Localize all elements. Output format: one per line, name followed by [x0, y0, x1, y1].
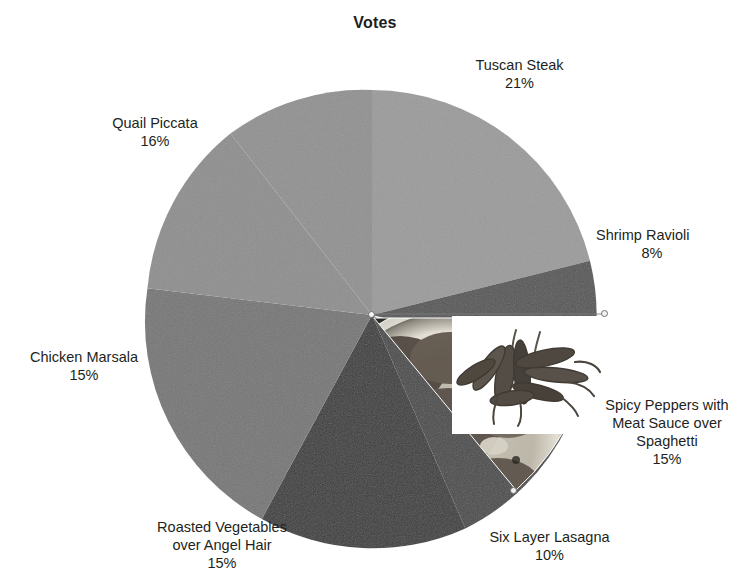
pie-label-roasted-vegetables-line1: Roasted Vegetables — [122, 518, 322, 536]
pie-label-spicy-peppers-line3: Spaghetti — [584, 432, 750, 450]
pie-label-spicy-peppers: Spicy Peppers with Meat Sauce over Spagh… — [584, 396, 750, 468]
pie-label-quail-piccata-text: Quail Piccata — [60, 114, 250, 132]
pie-label-quail-piccata: Quail Piccata 16% — [60, 114, 250, 150]
pie-label-six-layer-lasagna-text: Six Layer Lasagna — [462, 528, 637, 546]
pie-label-spicy-peppers-percent: 15% — [584, 450, 750, 468]
pie-label-shrimp-ravioli-percent: 8% — [596, 244, 708, 262]
pie-label-chicken-marsala-text: Chicken Marsala — [4, 348, 164, 366]
selection-handle-center[interactable] — [368, 311, 375, 318]
pie-label-tuscan-steak-percent: 21% — [432, 74, 607, 92]
pie-label-shrimp-ravioli-text: Shrimp Ravioli — [596, 226, 746, 244]
pie-label-spicy-peppers-line1: Spicy Peppers with — [584, 396, 750, 414]
pie-label-roasted-vegetables-line2: over Angel Hair — [122, 536, 322, 554]
pie-label-spicy-peppers-line2: Meat Sauce over — [584, 414, 750, 432]
pie-label-roasted-vegetables-percent: 15% — [122, 554, 322, 572]
pie-label-quail-piccata-percent: 16% — [60, 132, 250, 150]
pie-label-six-layer-lasagna: Six Layer Lasagna 10% — [462, 528, 637, 564]
selection-handle-bottom[interactable] — [510, 487, 517, 494]
pie-label-tuscan-steak-text: Tuscan Steak — [432, 56, 607, 74]
pie-label-shrimp-ravioli: Shrimp Ravioli 8% — [596, 226, 746, 262]
pie-label-tuscan-steak: Tuscan Steak 21% — [432, 56, 607, 92]
pie-label-chicken-marsala: Chicken Marsala 15% — [4, 348, 164, 384]
pie-label-six-layer-lasagna-percent: 10% — [462, 546, 637, 564]
selection-handle-top-right[interactable] — [601, 310, 608, 317]
pie-label-chicken-marsala-percent: 15% — [4, 366, 164, 384]
pie-label-roasted-vegetables: Roasted Vegetables over Angel Hair 15% — [122, 518, 322, 572]
pie-chart-graphic[interactable] — [0, 0, 750, 582]
pie-chart-page: Votes — [0, 0, 750, 582]
